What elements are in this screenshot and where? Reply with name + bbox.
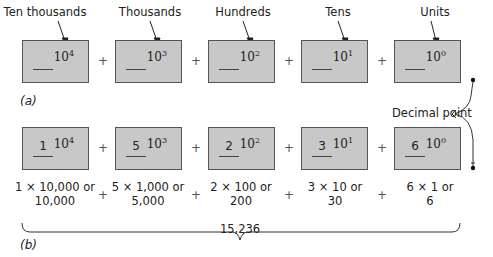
place-box-units: 100 [394,40,461,83]
blank-line [33,69,53,70]
digit-box-units: 6 100 [394,127,461,170]
expansion-tens: 3 × 10 or30 [308,180,362,208]
digit-box-hundreds: 2 102 [208,127,275,170]
digit-box-tens: 3 101 [301,127,368,170]
power-label: 104 [54,136,74,151]
digit-box-thousands: 5 103 [115,127,182,170]
plus-sign: + [191,188,201,202]
digit: 6 [405,139,425,153]
expansion-ten-thousands: 1 × 10,000 or10,000 [15,180,95,208]
underline [126,156,146,157]
expansion-hundreds: 2 × 100 or200 [210,180,272,208]
caption-a: (a) [20,94,37,108]
power-label: 103 [147,136,167,151]
blank-line [219,69,239,70]
underline [219,156,239,157]
power-label: 104 [54,49,74,64]
digit: 3 [312,139,332,153]
decimal-point-label: Decimal point [392,106,472,120]
power-label: 100 [426,49,446,64]
underline [33,156,53,157]
plus-sign: + [191,54,201,68]
plus-sign: + [377,141,387,155]
digit: 2 [219,139,239,153]
header-hundreds: Hundreds [215,5,270,19]
power-label: 101 [333,49,353,64]
plus-sign: + [377,54,387,68]
power-label: 103 [147,49,167,64]
header-thousands: Thousands [119,5,181,19]
power-label: 101 [333,136,353,151]
power-label: 102 [240,136,260,151]
plus-sign: + [284,188,294,202]
header-ten-thousands: Ten thousands [4,5,87,19]
underline [405,156,425,157]
digit-box-ten-thousands: 1 104 [22,127,89,170]
expansion-thousands: 5 × 1,000 or5,000 [112,180,185,208]
power-label: 100 [426,136,446,151]
plus-sign: + [98,141,108,155]
blank-line [405,69,425,70]
header-tens: Tens [325,5,350,19]
plus-sign: + [98,54,108,68]
place-box-tens: 101 [301,40,368,83]
place-box-ten-thousands: 104 [22,40,89,83]
digit: 5 [126,139,146,153]
plus-sign: + [377,188,387,202]
place-box-hundreds: 102 [208,40,275,83]
plus-sign: + [284,141,294,155]
plus-sign: + [98,188,108,202]
blank-line [312,69,332,70]
plus-sign: + [191,141,201,155]
blank-line [126,69,146,70]
total-value: 15,236 [220,222,260,236]
expansion-units: 6 × 1 or6 [407,180,454,208]
power-label: 102 [240,49,260,64]
digit: 1 [33,139,53,153]
caption-b: (b) [20,238,37,252]
plus-sign: + [284,54,294,68]
underline [312,156,332,157]
header-units: Units [420,5,449,19]
place-box-thousands: 103 [115,40,182,83]
